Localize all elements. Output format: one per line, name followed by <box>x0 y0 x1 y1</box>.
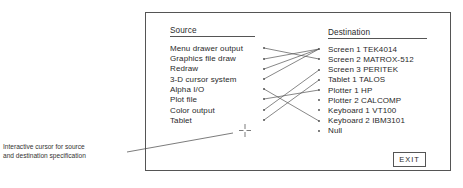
callout-line-1: Interactive cursor for source <box>3 142 86 151</box>
connection-line <box>264 80 319 120</box>
exit-button[interactable]: EXIT <box>393 152 426 167</box>
connection-line <box>264 90 319 99</box>
connection-line <box>264 89 319 121</box>
cursor-callout-label: Interactive cursor for source and destin… <box>3 142 86 160</box>
callout-leader-line <box>127 133 233 152</box>
callout-line-2: and destination specification <box>3 151 86 160</box>
crosshair-cursor-icon[interactable] <box>239 124 251 137</box>
connection-line <box>264 70 319 110</box>
connection-line <box>264 49 319 69</box>
